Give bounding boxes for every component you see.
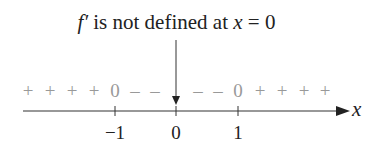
sign-marker: +	[23, 80, 34, 102]
sign-marker: +	[277, 80, 288, 102]
sign-marker: –	[193, 80, 203, 102]
sign-marker: –	[130, 80, 140, 102]
axis-arrow-head	[336, 106, 350, 116]
tick-label: 0	[171, 122, 181, 144]
axis-label: x	[352, 97, 361, 122]
sign-marker: +	[45, 80, 56, 102]
sign-marker: +	[255, 80, 266, 102]
sign-marker: +	[320, 80, 331, 102]
number-line-graphic	[0, 0, 388, 145]
tick-label: −1	[105, 122, 125, 144]
sign-marker: 0	[233, 80, 243, 102]
sign-marker: +	[67, 80, 78, 102]
sign-marker: –	[150, 80, 160, 102]
sign-marker: 0	[110, 80, 120, 102]
pointer-arrow-head	[172, 96, 180, 105]
sign-marker: –	[213, 80, 223, 102]
sign-marker: +	[89, 80, 100, 102]
sign-marker: +	[299, 80, 310, 102]
tick-label: 1	[233, 122, 243, 144]
